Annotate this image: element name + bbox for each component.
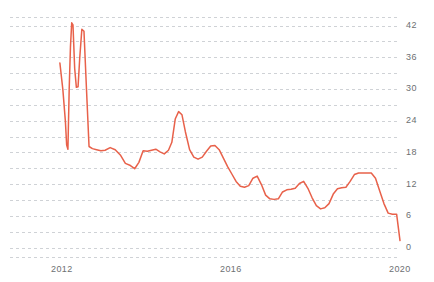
series-line-value: [60, 23, 400, 241]
y-tick-label: 24: [406, 115, 417, 125]
x-tick-label: 2016: [220, 264, 242, 274]
y-tick-label: 6: [406, 210, 411, 220]
y-tick-label: 0: [406, 242, 411, 252]
x-tick-label: 2020: [389, 264, 411, 274]
y-tick-label: 18: [406, 147, 417, 157]
x-tick-label: 2012: [51, 264, 73, 274]
y-tick-label: 42: [406, 20, 417, 30]
chart-plot-area: [0, 0, 434, 282]
y-tick-label: 12: [406, 179, 417, 189]
line-chart: 06121824303642 201220162020: [0, 0, 434, 282]
y-tick-label: 30: [406, 83, 417, 93]
y-tick-label: 36: [406, 52, 417, 62]
